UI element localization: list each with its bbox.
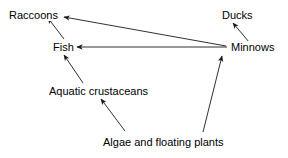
node-label-aquatic-crustaceans: Aquatic crustaceans (48, 85, 149, 97)
node-label-algae-and-floating-plants: Algae and floating plants (102, 136, 224, 148)
edge-algae-to-aquatic-crustaceans (101, 99, 125, 131)
edges-group (48, 17, 249, 132)
node-label-minnows: Minnows (230, 41, 275, 53)
food-web-edges-canvas (0, 0, 288, 158)
edge-minnows-to-ducks (233, 23, 249, 42)
node-label-raccoons: Raccoons (8, 9, 59, 21)
edge-minnows-to-raccoons (64, 17, 226, 46)
edge-aquatic-crustaceans-to-fish (64, 55, 83, 83)
food-web-diagram: Raccoons Ducks Fish Minnows Aquatic crus… (0, 0, 288, 158)
node-label-ducks: Ducks (221, 9, 254, 21)
edge-algae-to-minnows (203, 56, 222, 132)
edge-fish-to-raccoons (48, 18, 64, 39)
node-label-fish: Fish (52, 41, 75, 53)
